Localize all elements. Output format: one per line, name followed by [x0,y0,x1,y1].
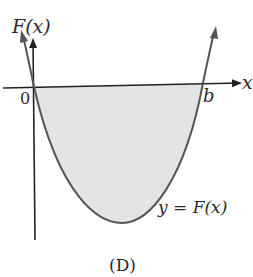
y-axis-label: F(x) [11,15,51,37]
diagram-canvas: F(x) x 0 b y = F(x) (D) [0,0,253,277]
curve-label: y = F(x) [157,197,227,217]
root-b-label: b [203,85,215,106]
figure-caption: (D) [109,255,136,275]
origin-label: 0 [20,89,30,108]
curve-right-arrowhead [210,26,218,39]
x-axis-label: x [242,71,253,93]
y-axis [33,40,35,240]
